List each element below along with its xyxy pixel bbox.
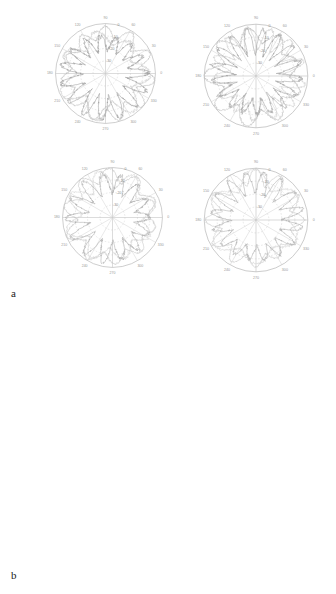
radial-tick-label: -10 [263,180,268,184]
angle-tick-label: 90 [104,16,108,20]
angle-tick-label: 150 [203,189,209,193]
angle-tick-label: 300 [130,120,136,124]
angle-tick-label: 0 [313,74,315,78]
polar-plot-a2: 0306090120150180210240270300330-30-20-10… [186,6,326,146]
radial-tick-label: -30 [257,205,262,209]
angle-tick-label: 330 [303,247,309,251]
polar-spoke [230,220,256,265]
angle-tick-label: 30 [304,45,308,49]
angle-tick-label: 90 [111,160,115,164]
angle-tick-label: 150 [61,188,67,192]
angle-tick-label: 120 [82,167,88,171]
angle-tick-label: 60 [283,168,287,172]
polar-spoke [230,31,256,76]
polar-trace [210,172,303,262]
radial-tick-label: -20 [116,191,121,195]
polar-plot-a1: 0306090120150180210240270300330-30-20-10… [38,6,173,141]
polar-trace [211,170,299,265]
angle-tick-label: 210 [54,99,60,103]
polar-spoke [69,218,112,243]
angle-tick-label: 180 [54,215,60,219]
polar-spoke [230,175,256,220]
angle-tick-label: 270 [110,271,116,275]
polar-spoke [256,175,282,220]
radial-tick-label: 0 [268,168,270,172]
angle-tick-label: 60 [138,167,142,171]
angle-tick-label: 180 [195,218,201,222]
angle-tick-label: 150 [203,45,209,49]
angle-tick-label: 330 [158,243,164,247]
angle-tick-label: 0 [160,71,162,75]
radial-tick-label: 0 [124,167,126,171]
polar-axes: 0306090120150180210240270300330-30-20-10… [45,150,180,285]
angle-tick-label: 240 [75,120,81,124]
polar-axes: 0306090120150180210240270300330-30-20-10… [38,6,173,141]
radial-tick-label: 0 [117,23,119,27]
panel-label-b: b [11,569,17,581]
polar-spoke [211,220,256,246]
polar-plot-a4: 0306090120150180210240270300330-30-20-10… [186,150,326,290]
angle-tick-label: 60 [131,23,135,27]
panel-a: 0306090120150180210240270300330-30-20-10… [0,0,336,300]
angle-tick-label: 120 [224,168,230,172]
polar-spoke [81,30,106,73]
angle-tick-label: 270 [253,132,259,136]
angle-tick-label: 210 [203,103,209,107]
angle-tick-label: 30 [152,44,156,48]
angle-tick-label: 240 [82,264,88,268]
angle-tick-label: 90 [254,16,258,20]
angle-tick-label: 60 [283,24,287,28]
radial-tick-label: -20 [260,193,265,197]
polar-spoke [256,31,282,76]
angle-tick-label: 210 [203,247,209,251]
radial-tick-label: -10 [263,36,268,40]
angle-tick-label: 210 [61,243,67,247]
polar-spoke [62,49,105,74]
angle-tick-label: 90 [254,160,258,164]
polar-plot-a3: 0306090120150180210240270300330-30-20-10… [45,150,180,285]
angle-tick-label: 240 [224,124,230,128]
polar-axes: 0306090120150180210240270300330-30-20-10… [186,150,326,290]
panel-label-a: a [11,287,16,299]
panel-b: 0306090120150180210240270300330-30-20-10… [0,300,336,594]
angle-tick-label: 0 [313,218,315,222]
radial-tick-label: -30 [106,59,111,63]
angle-tick-label: 180 [47,71,53,75]
angle-tick-label: 120 [224,24,230,28]
radial-tick-label: -30 [113,203,118,207]
angle-tick-label: 120 [75,23,81,27]
polar-spoke [256,194,301,220]
radial-tick-label: 0 [268,24,270,28]
angle-tick-label: 330 [151,99,157,103]
radial-tick-label: -30 [257,61,262,65]
figure-canvas: 0306090120150180210240270300330-30-20-10… [0,0,336,594]
angle-tick-label: 270 [253,276,259,280]
polar-spoke [211,194,256,220]
angle-tick-label: 30 [304,189,308,193]
polar-axes: 0306090120150180210240270300330-30-20-10… [186,6,326,146]
radial-tick-label: -10 [120,179,125,183]
angle-tick-label: 0 [167,215,169,219]
polar-spoke [256,76,301,102]
angle-tick-label: 240 [224,268,230,272]
angle-tick-label: 300 [282,124,288,128]
angle-tick-label: 30 [159,188,163,192]
polar-trace [60,31,151,122]
radial-tick-label: -10 [113,35,118,39]
radial-tick-label: -20 [260,49,265,53]
angle-tick-label: 300 [137,264,143,268]
angle-tick-label: 330 [303,103,309,107]
angle-tick-label: 300 [282,268,288,272]
angle-tick-label: 150 [54,44,60,48]
angle-tick-label: 270 [103,127,109,131]
polar-spoke [88,218,113,261]
angle-tick-label: 180 [195,74,201,78]
polar-spoke [106,49,149,74]
radial-tick-label: -20 [109,47,114,51]
